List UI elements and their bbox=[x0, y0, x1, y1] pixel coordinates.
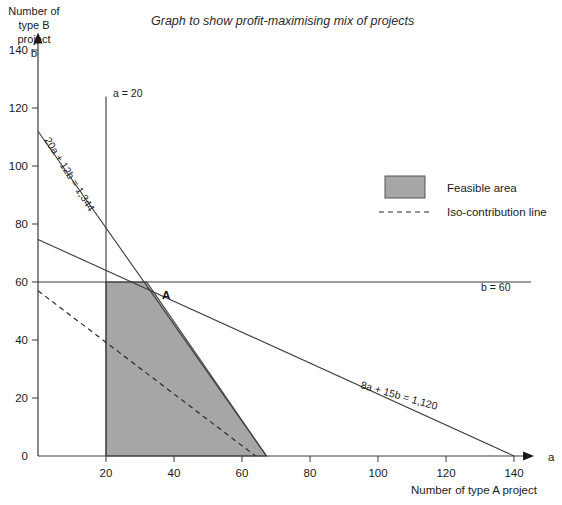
y-tick-label-80: 80 bbox=[15, 218, 28, 230]
label-vertical-constraint: a = 20 bbox=[113, 87, 143, 99]
y-axis-caption-line-2: type B bbox=[18, 19, 49, 31]
x-tick-label-140: 140 bbox=[504, 467, 523, 479]
label-constraint-2: 8a + 15b = 1,120 bbox=[359, 378, 439, 411]
x-tick-label-120: 120 bbox=[436, 467, 455, 479]
y-tick-label-40: 40 bbox=[15, 334, 28, 346]
y-tick-label-60: 60 bbox=[15, 276, 28, 288]
x-tick-label-40: 40 bbox=[168, 467, 181, 479]
chart-container: Graph to show profit-maximising mix of p… bbox=[0, 0, 562, 505]
plot-area: 20406080100120140020406080100120140 bbox=[9, 33, 534, 480]
legend-label-iso-contribution-line: Iso-contribution line bbox=[447, 206, 547, 218]
x-tick-label-100: 100 bbox=[368, 467, 387, 479]
legend-label-feasible-area: Feasible area bbox=[447, 182, 517, 194]
y-axis-caption-line-1: Number of bbox=[8, 5, 60, 17]
x-tick-label-20: 20 bbox=[100, 467, 113, 479]
y-axis-symbol: b bbox=[31, 47, 37, 59]
x-axis-caption: Number of type A project bbox=[411, 484, 538, 496]
x-tick-label-80: 80 bbox=[304, 467, 317, 479]
legend-swatch-feasible-area bbox=[385, 176, 425, 198]
x-axis-symbol: a bbox=[548, 451, 555, 463]
y-tick-label-100: 100 bbox=[9, 160, 28, 172]
y-tick-label-140: 140 bbox=[9, 44, 28, 56]
label-point-a: A bbox=[162, 289, 170, 301]
legend: Feasible area Iso-contribution line bbox=[379, 176, 547, 218]
y-tick-label-120: 120 bbox=[9, 102, 28, 114]
label-constraint-1: 20a + 12b = 1,344 bbox=[42, 135, 97, 214]
x-axis-arrowhead bbox=[523, 452, 534, 461]
chart-title: Graph to show profit-maximising mix of p… bbox=[151, 14, 414, 28]
x-tick-label-60: 60 bbox=[236, 467, 249, 479]
y-tick-label-20: 20 bbox=[15, 392, 28, 404]
linear-programming-graph: Graph to show profit-maximising mix of p… bbox=[0, 0, 562, 505]
feasible-area-region bbox=[106, 282, 266, 456]
label-horizontal-constraint: b = 60 bbox=[481, 281, 511, 293]
y-tick-label-0: 0 bbox=[22, 450, 28, 462]
